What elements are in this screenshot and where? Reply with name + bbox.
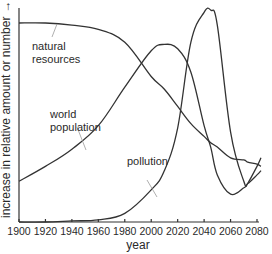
- x-tick-label: 1960: [87, 225, 111, 237]
- y-axis-title: increase in relative amount or number→: [0, 1, 13, 218]
- chart-canvas: 1900192019401960198020002020204020602080…: [0, 0, 272, 254]
- x-tick-label: 1980: [113, 225, 137, 237]
- x-tick-label: 1920: [34, 225, 58, 237]
- natural-resources-leader-line: [52, 24, 57, 37]
- x-tick-label: 2040: [192, 225, 216, 237]
- x-tick-label: 1900: [7, 225, 31, 237]
- x-tick-label: 2000: [140, 225, 164, 237]
- x-tick-label: 2080: [245, 225, 269, 237]
- x-tick-label: 2060: [219, 225, 243, 237]
- x-axis-tick-labels: 1900192019401960198020002020204020602080: [7, 225, 269, 237]
- pollution-leader-line: [147, 180, 157, 197]
- pollution-label: pollution: [127, 155, 168, 167]
- x-tick-label: 2020: [166, 225, 190, 237]
- x-tick-label: 1940: [60, 225, 84, 237]
- natural-resources-label: natural resources: [32, 40, 81, 65]
- x-axis-title: year: [126, 238, 149, 252]
- world-population-label: world population: [49, 108, 101, 133]
